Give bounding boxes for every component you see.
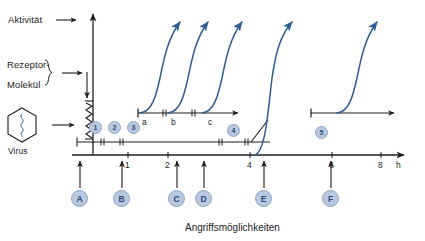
attack-point-b-label: B	[118, 194, 124, 204]
x-axis	[72, 152, 404, 158]
stage-marker-2-label: 2	[113, 124, 117, 131]
stage-marker-3[interactable]: 3	[127, 121, 140, 134]
activity-curve-2	[168, 22, 208, 113]
sub-segment-label-b: b	[171, 117, 176, 127]
attack-point-c[interactable]: C	[168, 190, 185, 207]
x-tick-label-6: 6	[329, 160, 334, 170]
x-tick-label-8: 8	[378, 160, 383, 170]
sub-segment-label-c: c	[208, 117, 212, 127]
receptor-label-line1: Rezeptor-	[7, 59, 50, 70]
receptor-label-line2: Molekül	[7, 79, 40, 90]
stage-marker-5[interactable]: 5	[315, 126, 328, 139]
attack-point-f-label: F	[328, 194, 333, 204]
x-tick-label-4: 4	[247, 160, 252, 170]
activity-curve-5	[337, 22, 377, 113]
stage-marker-1[interactable]: 1	[89, 121, 102, 134]
activity-curve-4	[255, 22, 292, 155]
attack-point-a-label: A	[76, 194, 82, 204]
activity-curve-1	[140, 22, 180, 113]
virus-icon	[8, 108, 36, 142]
attack-point-c-label: C	[173, 194, 179, 204]
attack-point-e[interactable]: E	[255, 190, 272, 207]
attack-point-a[interactable]: A	[71, 190, 88, 207]
stage-marker-1-label: 1	[94, 124, 98, 131]
stage5-sub-axis	[311, 109, 394, 118]
x-axis-unit-label: h	[396, 160, 401, 170]
y-axis-label: Aktivität	[8, 14, 42, 25]
abc-sub-axis	[138, 109, 238, 118]
activity-curve-3	[202, 22, 242, 113]
diagram-caption: Angriffsmöglichkeiten	[185, 222, 280, 233]
stage-marker-5-label: 5	[320, 129, 324, 136]
attack-point-d-label: D	[200, 194, 206, 204]
diagram-vector-layer	[0, 0, 425, 241]
attack-point-b[interactable]: B	[113, 190, 130, 207]
attack-point-d[interactable]: D	[195, 190, 212, 207]
x-tick-label-1: 1	[125, 160, 130, 170]
attack-point-f[interactable]: F	[322, 190, 339, 207]
virus-label: Virus	[8, 146, 28, 156]
attack-point-connectors	[80, 161, 331, 188]
activity-curves	[140, 22, 377, 155]
attack-point-e-label: E	[261, 194, 267, 204]
stage-marker-4-label: 4	[232, 127, 236, 134]
sub-segment-label-a: a	[142, 117, 147, 127]
x-tick-label-2: 2	[165, 160, 170, 170]
diagram-canvas: Aktivität Rezeptor- Molekül Virus a b c …	[0, 0, 425, 241]
stage-marker-2[interactable]: 2	[108, 121, 121, 134]
label-arrows	[52, 20, 82, 125]
stage-marker-3-label: 3	[132, 124, 136, 131]
stage-marker-4[interactable]: 4	[227, 124, 240, 137]
